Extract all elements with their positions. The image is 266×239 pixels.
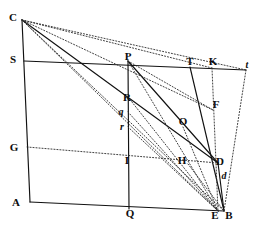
- point-label-R: R: [123, 92, 131, 103]
- ray-t-to-B: [224, 70, 246, 211]
- point-label-H: H: [178, 155, 187, 166]
- point-label-T: T: [186, 56, 193, 67]
- point-label-t: t: [246, 59, 249, 70]
- point-label-O: O: [179, 116, 188, 127]
- point-label-S: S: [10, 54, 16, 65]
- point-label-r: r: [120, 121, 124, 132]
- point-label-I: I: [125, 155, 129, 166]
- left-side-CA: [22, 20, 30, 202]
- point-label-P: P: [125, 51, 132, 62]
- ray-C-to-F: [22, 20, 213, 110]
- line-G-to-D: [27, 147, 218, 163]
- ray-K-to-E: [212, 68, 218, 211]
- point-label-B: B: [225, 210, 232, 221]
- dotted-lines-group: [22, 20, 246, 211]
- diagram-lines: [0, 0, 266, 239]
- ray-C-to-K: [22, 20, 212, 68]
- point-label-F: F: [213, 99, 220, 110]
- point-label-Q: Q: [126, 208, 135, 219]
- point-label-K: K: [209, 56, 218, 67]
- point-label-D: D: [216, 156, 224, 167]
- point-label-A: A: [12, 197, 20, 208]
- ray-R-to-E: [128, 97, 218, 211]
- solid-lines-group: [22, 20, 246, 211]
- point-label-G: G: [10, 142, 19, 153]
- point-label-C: C: [9, 12, 17, 23]
- ray-r-to-E: [128, 127, 218, 211]
- vertical-P-to-Q: [128, 61, 129, 209]
- geometry-figure: CSGAPRqrIQTKtFOHDdEB: [0, 0, 266, 239]
- chord-T-to-B: [190, 67, 224, 211]
- point-label-q: q: [119, 106, 124, 117]
- ray-O-to-E: [183, 127, 218, 211]
- point-label-d: d: [222, 170, 227, 181]
- point-label-E: E: [211, 210, 218, 221]
- ray-P-to-E: [128, 61, 218, 211]
